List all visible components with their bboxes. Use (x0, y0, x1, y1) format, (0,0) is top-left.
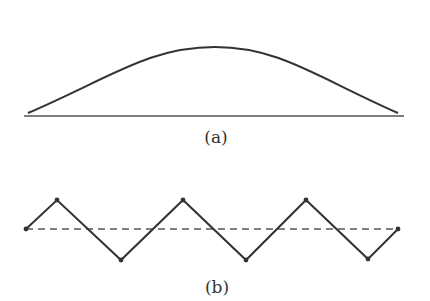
vertex-dot (55, 198, 60, 203)
panel-b-label: (b) (205, 279, 229, 296)
panel-a-arch-curve (28, 47, 398, 113)
vertex-dot (396, 227, 401, 232)
diagram-canvas (0, 0, 430, 301)
vertex-dot (24, 227, 29, 232)
panel-a-label: (a) (204, 129, 227, 146)
panel-b-vertices (24, 198, 401, 263)
panel-b-zigzag-line (26, 200, 398, 260)
vertex-dot (119, 258, 124, 263)
vertex-dot (304, 198, 309, 203)
panel-b (24, 198, 401, 263)
vertex-dot (181, 198, 186, 203)
vertex-dot (366, 257, 371, 262)
vertex-dot (244, 258, 249, 263)
panel-a (24, 47, 404, 116)
